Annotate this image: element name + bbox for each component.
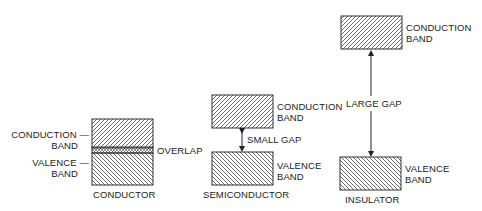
conductor-title: CONDUCTOR bbox=[93, 189, 155, 200]
conductor-valence-band bbox=[92, 153, 153, 185]
conductor-conduction-band bbox=[92, 119, 153, 148]
semiconductor-valence-label: VALENCE BAND bbox=[277, 160, 321, 182]
conductor-valence-label: VALENCE — BAND bbox=[0, 157, 89, 179]
semiconductor-valence-label-line1: VALENCE bbox=[277, 160, 321, 171]
insulator-conduction-label-line1: CONDUCTION bbox=[406, 22, 471, 33]
insulator-valence-band bbox=[340, 157, 401, 190]
large-gap-label: LARGE GAP bbox=[345, 98, 403, 109]
insulator-valence-label-line1: VALENCE bbox=[405, 163, 449, 174]
semiconductor-conduction-label: CONDUCTION BAND bbox=[277, 101, 342, 123]
semiconductor-valence-band bbox=[212, 152, 273, 185]
insulator-conduction-band bbox=[341, 16, 402, 49]
conductor-group bbox=[92, 119, 153, 185]
semiconductor-conduction-label-line1: CONDUCTION bbox=[277, 101, 342, 112]
small-gap-label: SMALL GAP bbox=[247, 134, 301, 145]
conductor-valence-label-line2: BAND bbox=[0, 168, 89, 179]
insulator-conduction-label-line2: BAND bbox=[406, 33, 471, 44]
semiconductor-valence-label-line2: BAND bbox=[277, 171, 321, 182]
conductor-conduction-label: CONDUCTION — BAND bbox=[0, 129, 89, 151]
conductor-conduction-label-line1: CONDUCTION — bbox=[0, 129, 89, 140]
insulator-title: INSULATOR bbox=[345, 194, 399, 205]
overlap-label: OVERLAP bbox=[157, 145, 203, 156]
insulator-conduction-label: CONDUCTION BAND bbox=[406, 22, 471, 44]
insulator-valence-label-line2: BAND bbox=[405, 174, 449, 185]
semiconductor-conduction-band bbox=[212, 95, 273, 128]
conductor-overlap-band bbox=[92, 147, 153, 153]
semiconductor-title: SEMICONDUCTOR bbox=[203, 189, 289, 200]
semiconductor-conduction-label-line2: BAND bbox=[277, 112, 342, 123]
conductor-valence-label-line1: VALENCE — bbox=[0, 157, 89, 168]
insulator-valence-label: VALENCE BAND bbox=[405, 163, 449, 185]
conductor-conduction-label-line2: BAND bbox=[0, 140, 89, 151]
